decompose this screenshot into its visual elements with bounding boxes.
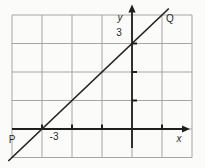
point-label-p: P: [9, 135, 16, 145]
coordinate-grid: [0, 0, 205, 168]
x-intercept-label: -3: [50, 132, 59, 142]
x-axis-label: x: [177, 134, 182, 144]
y-intercept-label: 3: [116, 28, 122, 38]
coordinate-plane-figure: y 3 Q x -3 P: [0, 0, 205, 168]
y-axis-label: y: [118, 13, 123, 23]
point-label-q: Q: [166, 14, 174, 24]
